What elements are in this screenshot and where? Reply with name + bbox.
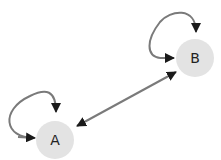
- graph-canvas: A B: [0, 0, 221, 160]
- edge-a-b-bidirectional: [77, 72, 176, 126]
- node-b-label: B: [190, 50, 200, 66]
- edge-a-loop-entry: [18, 137, 35, 138]
- node-a[interactable]: A: [36, 121, 74, 159]
- node-a-label: A: [50, 132, 60, 148]
- node-b[interactable]: B: [176, 39, 214, 77]
